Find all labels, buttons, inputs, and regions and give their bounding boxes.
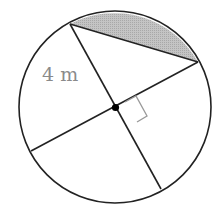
- center-point: [112, 104, 119, 111]
- right-angle-marker: [125, 96, 147, 122]
- radius-label: 4 m: [42, 63, 78, 85]
- circle-diagram: 4 m: [0, 0, 223, 208]
- shaded-segment: [70, 13, 198, 62]
